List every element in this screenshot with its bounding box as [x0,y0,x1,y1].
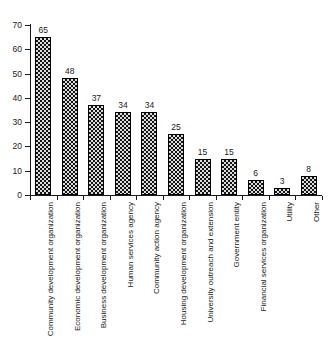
x-axis-tick [57,196,58,200]
bar[interactable] [195,159,211,195]
bar-value-label: 15 [214,148,244,157]
x-axis-tick [136,196,137,200]
bar-value-label: 34 [108,101,138,110]
bar-value-label: 8 [294,165,324,174]
bar[interactable] [274,188,290,195]
bar[interactable] [88,105,104,195]
bar-value-label: 34 [134,101,164,110]
x-axis-tick [83,196,84,200]
bar-chart: 010203040506070 6548373434251515638 Comm… [0,0,332,354]
x-axis-tick [189,196,190,200]
x-axis-category-label: University outreach and extension [207,202,215,323]
x-axis-tick [322,196,323,200]
x-axis-tick [295,196,296,200]
x-axis-tick [216,196,217,200]
y-axis-tick-label: 10 [2,167,22,176]
x-axis-tick [242,196,243,200]
plot-area [30,25,322,195]
y-axis-tick-label: 30 [2,118,22,127]
bar-value-label: 6 [241,169,271,178]
x-axis-tick [110,196,111,200]
x-axis-category-label: Community action agency [153,202,161,294]
bar-value-label: 3 [267,177,297,186]
x-axis-category-label: Community development organization [47,202,55,336]
x-axis-category-label: Financial services organization [260,202,268,311]
bar-value-label: 25 [161,123,191,132]
x-axis-line [30,195,322,196]
bar[interactable] [248,180,264,195]
y-axis-tick-label: 70 [2,21,22,30]
y-axis-tick-label: 40 [2,94,22,103]
x-axis-category-label: Government entity [233,202,241,267]
bar-value-label: 65 [28,26,58,35]
x-axis-tick [163,196,164,200]
bar-value-label: 15 [188,148,218,157]
x-axis-tick [30,196,31,200]
bar[interactable] [221,159,237,195]
y-axis-tick-label: 0 [2,191,22,200]
bar[interactable] [35,37,51,195]
bar[interactable] [301,176,317,195]
x-axis-category-label: Housing development organization [180,202,188,325]
bar-value-label: 48 [55,67,85,76]
y-axis-tick-label: 50 [2,70,22,79]
bar[interactable] [115,112,131,195]
x-axis-category-label: Economic development organization [74,202,82,331]
bar[interactable] [62,78,78,195]
bar[interactable] [141,112,157,195]
y-axis-tick-label: 60 [2,45,22,54]
y-axis-tick-label: 20 [2,142,22,151]
x-axis-category-label: Business development organization [100,202,108,328]
bar-value-label: 37 [81,94,111,103]
bar[interactable] [168,134,184,195]
x-axis-category-label: Utility [286,202,294,222]
x-axis-category-label: Other [313,202,321,222]
x-axis-tick [269,196,270,200]
x-axis-category-label: Human services agency [127,202,135,287]
